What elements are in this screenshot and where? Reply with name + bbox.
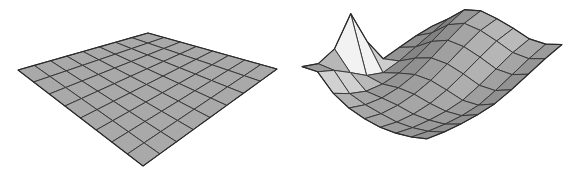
panel-deformed-grid xyxy=(292,0,584,173)
undeformed-grid-svg xyxy=(0,0,292,173)
deformed-grid-svg xyxy=(292,0,584,173)
deformed-mesh-faces xyxy=(302,10,562,139)
figure-root xyxy=(0,0,584,173)
panel-undeformed-grid xyxy=(0,0,292,173)
